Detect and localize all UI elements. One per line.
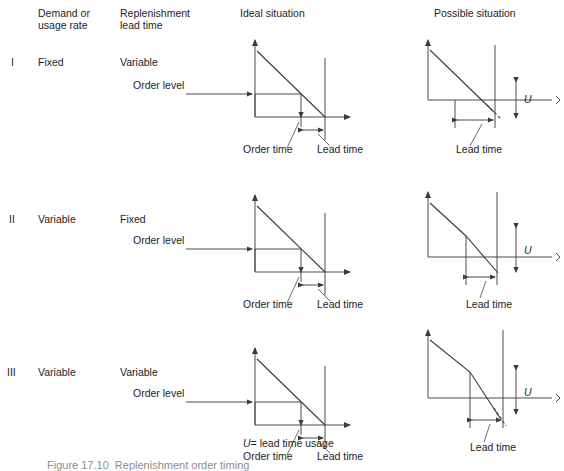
usage-symbol-row-ii: U bbox=[524, 244, 532, 256]
chart-row-iii-possible bbox=[428, 330, 560, 442]
chart-row-i-possible bbox=[428, 40, 560, 146]
usage-symbol-row-i: U bbox=[524, 93, 532, 105]
usage-symbol-row-iii: U bbox=[524, 386, 532, 398]
legend-symbol: U bbox=[243, 437, 251, 449]
legend-equals: = bbox=[251, 437, 257, 449]
order-level-label-row-ii: Order level bbox=[133, 234, 184, 246]
lead-time-label-row-i-ideal: Lead time bbox=[317, 143, 363, 155]
order-time-label-row-iii: Order time bbox=[243, 450, 293, 462]
chart-row-ii-possible bbox=[428, 192, 560, 298]
lead-time-label-row-i-possible: Lead time bbox=[456, 143, 502, 155]
chart-row-ii-ideal bbox=[186, 195, 350, 303]
lead-time-label-row-ii-possible: Lead time bbox=[466, 298, 512, 310]
lead-time-label-row-iii-ideal: Lead time bbox=[317, 450, 363, 462]
lead-time-label-row-ii-ideal: Lead time bbox=[317, 298, 363, 310]
legend-text: lead time usage bbox=[260, 437, 334, 449]
figure-caption: Figure 17.10 Replenishment order timing bbox=[47, 459, 249, 471]
legend-lead-time-usage: U= lead time usage bbox=[243, 437, 334, 449]
order-level-label-row-iii: Order level bbox=[133, 387, 184, 399]
order-time-label-row-ii: Order time bbox=[243, 298, 293, 310]
chart-row-i-ideal bbox=[186, 40, 350, 148]
lead-time-label-row-iii-possible: Lead time bbox=[470, 441, 516, 453]
order-level-label-row-i: Order level bbox=[133, 79, 184, 91]
order-time-label-row-i: Order time bbox=[243, 143, 293, 155]
